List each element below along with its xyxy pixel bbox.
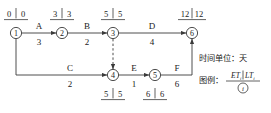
- legend-formula: ETi LTi i: [226, 71, 260, 94]
- node-5-label: 5: [153, 71, 157, 80]
- node-5-lt: 6: [160, 89, 164, 99]
- activity-E-name: E: [131, 63, 137, 73]
- activity-F-duration: 6: [175, 79, 180, 89]
- activity-E-duration: 1: [132, 79, 137, 89]
- activity-B-name: B: [84, 21, 90, 31]
- activity-A-name: A: [36, 21, 43, 31]
- node-1-lt: 0: [21, 9, 25, 19]
- time-unit-note: 时间单位：天: [199, 53, 247, 63]
- network-diagram-canvas: 1 2 3 4 5 6 0 0 3 3 5 5 12 12 5 5 6 6 A …: [0, 0, 271, 113]
- node-4-label: 4: [111, 71, 115, 80]
- node-1-label: 1: [14, 29, 18, 38]
- node-6-label: 6: [190, 29, 194, 38]
- edge-C-1-4: [16, 39, 107, 75]
- activity-B-duration: 2: [85, 37, 90, 47]
- node-5-et: 6: [146, 89, 150, 99]
- node-6-lt: 12: [195, 9, 204, 19]
- node-3-label: 3: [111, 29, 115, 38]
- node-2-et: 3: [53, 9, 57, 19]
- node-4-lt: 5: [118, 89, 122, 99]
- node-3-lt: 5: [118, 9, 122, 19]
- activity-A-duration: 3: [37, 37, 42, 47]
- node-4-et: 5: [104, 89, 108, 99]
- activity-C-duration: 2: [68, 79, 73, 89]
- node-3-et: 5: [104, 9, 108, 19]
- activity-D-duration: 4: [150, 37, 155, 47]
- activity-F-name: F: [174, 63, 179, 73]
- node-2-label: 2: [60, 29, 64, 38]
- node-6-et: 12: [181, 9, 190, 19]
- activity-C-name: C: [67, 63, 73, 73]
- legend-et: ETi: [230, 71, 242, 81]
- legend-lt: LTi: [244, 71, 255, 81]
- legend-label: 图例：: [199, 75, 223, 85]
- legend-node-index: i: [242, 85, 244, 93]
- node-1-et: 0: [7, 9, 11, 19]
- node-2-lt: 3: [67, 9, 71, 19]
- activity-D-name: D: [149, 21, 156, 31]
